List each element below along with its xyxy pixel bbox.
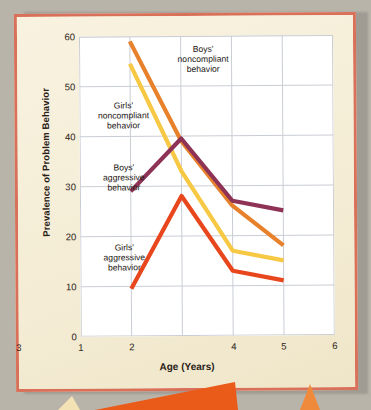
x-tick-3: 3 [9,342,29,353]
x-tick-1: 1 [71,342,91,353]
y-tick-50: 50 [35,81,75,92]
y-tick-20: 20 [36,231,76,242]
annotation-boys-noncompliant: Boys' noncompliant behavior [157,44,249,75]
x-tick-5: 5 [274,340,294,351]
annotation-girls-noncompliant: Girls' noncompliant behavior [83,100,163,131]
y-tick-30: 30 [36,181,76,192]
annotation-girls-aggressive: Girls' aggressive behavior [84,242,164,273]
x-tick-4: 4 [224,341,244,352]
annotation-boys-aggressive: Boys' aggressive behavior [84,162,164,193]
x-tick-2: 2 [122,341,142,352]
line-chart: Prevalence of Problem Behavior 60 50 40 … [17,15,355,389]
page-root: Prevalence of Problem Behavior 60 50 40 … [0,0,371,410]
y-tick-10: 10 [36,281,76,292]
y-tick-60: 60 [35,31,75,42]
figure-paper: Prevalence of Problem Behavior 60 50 40 … [14,12,358,392]
y-tick-40: 40 [36,131,76,142]
y-axis-title: Prevalence of Problem Behavior [40,72,52,252]
x-tick-6: 6 [325,340,345,351]
deco-triangle-cream [58,396,80,410]
x-axis-title: Age (Years) [19,360,355,373]
